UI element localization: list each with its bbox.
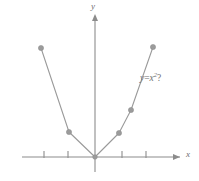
x-axis	[22, 151, 180, 160]
data-point	[150, 44, 155, 49]
data-point	[38, 45, 43, 50]
figure-container: y x y=x2?	[0, 0, 199, 181]
graph-canvas	[0, 0, 199, 181]
y-axis	[92, 14, 98, 172]
data-point	[128, 107, 133, 112]
data-markers	[38, 44, 155, 159]
curve-equation-annotation: y=x2?	[140, 72, 161, 84]
x-axis-arrowhead	[173, 154, 180, 160]
x-axis-label: x	[186, 150, 190, 159]
data-polyline	[41, 47, 153, 157]
y-axis-label: y	[91, 2, 95, 11]
annotation-question-mark: ?	[157, 73, 161, 83]
y-axis-arrowhead	[92, 14, 98, 21]
data-point	[93, 155, 98, 160]
data-point	[66, 129, 71, 134]
data-point	[116, 130, 121, 135]
